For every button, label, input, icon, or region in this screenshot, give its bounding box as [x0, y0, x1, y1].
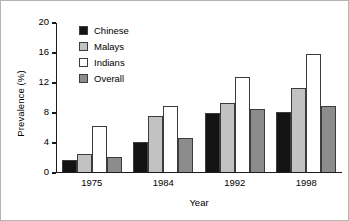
bar-group-1984	[128, 23, 200, 172]
bar-indians-1998	[306, 54, 321, 172]
bar-chinese-1992	[205, 113, 220, 172]
legend-item-chinese: Chinese	[79, 25, 129, 36]
x-tick-label-1975: 1975	[56, 177, 128, 188]
legend-label-chinese: Chinese	[94, 25, 129, 36]
x-axis-line	[56, 172, 342, 173]
legend-item-overall: Overall	[79, 73, 129, 84]
legend-label-overall: Overall	[94, 73, 124, 84]
legend-swatch-overall	[79, 74, 88, 83]
bar-indians-1984	[163, 106, 178, 172]
bar-chinese-1998	[276, 112, 291, 172]
x-axis-title: Year	[56, 197, 342, 208]
bar-overall-1992	[250, 109, 265, 172]
bar-overall-1998	[321, 106, 336, 172]
x-axis-tick-labels: 1975 1984 1992 1998	[56, 177, 342, 188]
bar-overall-1975	[107, 157, 122, 172]
legend-swatch-chinese	[79, 26, 88, 35]
bar-chinese-1984	[133, 142, 148, 172]
bar-overall-1984	[178, 138, 193, 172]
legend-item-malays: Malays	[79, 41, 129, 52]
bar-malays-1975	[77, 154, 92, 172]
bar-chinese-1975	[62, 160, 77, 172]
y-axis-title: Prevalence (%)	[15, 44, 26, 164]
bar-group-1992	[199, 23, 271, 172]
bar-group-1998	[271, 23, 343, 172]
legend-label-malays: Malays	[94, 41, 124, 52]
x-tick-label-1998: 1998	[271, 177, 343, 188]
bar-chart-figure: Prevalence (%) 0 4 8 12 16 20	[0, 0, 349, 221]
bar-malays-1984	[148, 116, 163, 172]
x-tick-label-1984: 1984	[128, 177, 200, 188]
y-tick-0: 0	[52, 172, 56, 173]
legend-swatch-indians	[79, 58, 88, 67]
legend-item-indians: Indians	[79, 57, 129, 68]
legend-label-indians: Indians	[94, 57, 125, 68]
x-tick-label-1992: 1992	[199, 177, 271, 188]
legend-swatch-malays	[79, 42, 88, 51]
bar-indians-1992	[235, 77, 250, 172]
bar-malays-1992	[220, 103, 235, 172]
bar-indians-1975	[92, 126, 107, 171]
chart-legend: Chinese Malays Indians Overall	[79, 25, 129, 84]
bar-malays-1998	[291, 88, 306, 171]
